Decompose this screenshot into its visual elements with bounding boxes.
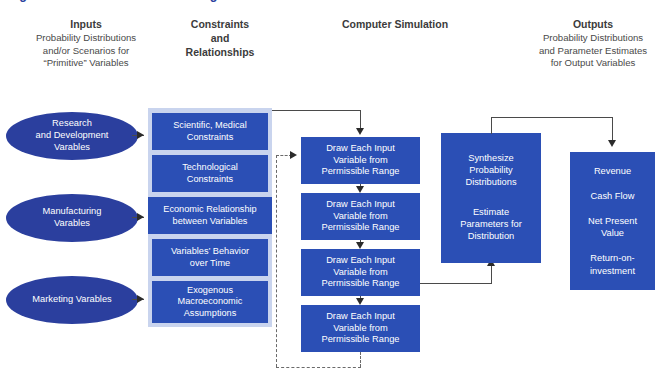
constraint-box-economic-relationship[interactable]: Economic Relationship between Variables [148, 197, 272, 234]
constraint-box-scientific-medical[interactable]: Scientific, Medical Constraints [152, 113, 268, 150]
column-header-simulation: Computer Simulation [300, 18, 490, 32]
column-header-outputs-title: Outputs [520, 18, 666, 32]
connector-synthesize-to-outputs-up [491, 117, 492, 134]
figure-title: Figure 10-4. Pharma R&D Planning Model [8, 0, 258, 2]
feedback-loop-segment-up [276, 155, 277, 367]
input-node-manufacturing[interactable]: Manufacturing Varables [6, 194, 138, 242]
connector-synthesize-to-outputs-horizontal [491, 117, 613, 118]
arrowhead-draw2-to-draw3 [356, 242, 364, 249]
simulation-box-draw-4[interactable]: Draw Each Input Variable from Permissibl… [301, 305, 420, 352]
arrowhead-draw3-to-draw4 [356, 298, 364, 305]
column-header-constraints: Constraints and Relationships [158, 18, 282, 60]
column-header-constraints-line3: Relationships [158, 46, 282, 60]
arrowhead-draw1-to-draw2 [356, 186, 364, 193]
column-header-simulation-title: Computer Simulation [300, 18, 490, 32]
feedback-loop-segment-down [360, 352, 361, 367]
synthesize-estimate-box[interactable]: Synthesize Probability Distributions Est… [441, 133, 541, 263]
constraint-box-exogenous-macro[interactable]: Exogenous Macroeconomic Assumptions [152, 281, 268, 323]
figure-root: Figure 10-4. Pharma R&D Planning Model I… [0, 0, 670, 379]
arrowhead-rd-to-constraints [137, 131, 144, 139]
simulation-box-draw-1[interactable]: Draw Each Input Variable from Permissibl… [301, 137, 420, 184]
input-node-marketing[interactable]: Marketing Varables [6, 276, 138, 324]
arrowhead-feedback-loop-into-draw1 [290, 151, 297, 159]
connector-constraints-to-simulation-horizontal [272, 110, 361, 111]
simulation-box-draw-2[interactable]: Draw Each Input Variable from Permissibl… [301, 193, 420, 240]
estimate-parameters-label: Estimate Parameters for Distribution [460, 207, 521, 243]
constraints-panel: Scientific, Medical Constraints Technolo… [148, 108, 272, 327]
constraint-box-variables-behavior[interactable]: Variables’ Behavior over Time [152, 239, 268, 276]
synthesize-probability-distributions-label: Synthesize Probability Distributions [465, 153, 516, 189]
connector-constraints-to-simulation-vertical [360, 110, 361, 129]
connector-synthesize-to-outputs-down [612, 117, 613, 142]
column-header-outputs-subtitle: Probability Distributions and Parameter … [520, 32, 666, 70]
column-header-outputs: Outputs Probability Distributions and Pa… [520, 18, 666, 70]
feedback-loop-segment-left [276, 367, 361, 368]
connector-simulation-to-synthesize-horizontal [420, 283, 492, 284]
arrowhead-manufacturing-to-constraints [137, 213, 144, 221]
arrowhead-into-simulation-top [356, 128, 364, 135]
arrowhead-marketing-to-constraints [137, 295, 144, 303]
simulation-box-draw-3[interactable]: Draw Each Input Variable from Permissibl… [301, 249, 420, 296]
outputs-box[interactable]: Revenue Cash Flow Net Present Value Retu… [570, 152, 655, 290]
constraint-box-technological[interactable]: Technological Constraints [152, 155, 268, 192]
column-header-constraints-line1: Constraints [158, 18, 282, 32]
column-header-inputs: Inputs Probability Distributions and/or … [6, 18, 166, 70]
connector-simulation-to-synthesize-vertical [491, 266, 492, 284]
arrowhead-into-outputs [608, 140, 616, 147]
column-header-constraints-line2: and [158, 32, 282, 46]
input-node-research-development[interactable]: Research and Development Varables [6, 112, 138, 160]
column-header-inputs-title: Inputs [6, 18, 166, 32]
column-header-inputs-subtitle: Probability Distributions and/or Scenari… [6, 32, 166, 70]
